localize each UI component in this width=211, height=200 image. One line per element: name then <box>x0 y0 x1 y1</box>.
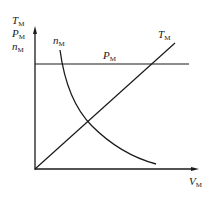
curve-nm <box>60 50 156 164</box>
y-label-tm: TM <box>12 14 25 28</box>
curve-label-pm: PM <box>102 49 117 63</box>
y-axis <box>33 26 37 170</box>
y-axis-arrow-icon <box>33 26 37 34</box>
curve-label-nm: nM <box>53 34 66 48</box>
x-axis-arrow-icon <box>191 167 199 171</box>
y-label-nm: nM <box>12 40 25 54</box>
x-label-vm: VM <box>189 175 203 189</box>
curve-tm <box>35 43 175 169</box>
x-axis <box>35 167 199 171</box>
diagram-canvas: TM PM nM nM PM TM VM <box>0 0 211 200</box>
y-label-pm: PM <box>11 27 26 41</box>
curve-label-tm: TM <box>158 28 171 42</box>
